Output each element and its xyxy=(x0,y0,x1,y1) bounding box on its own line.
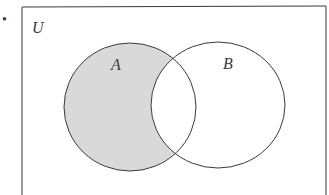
venn-diagram: • U A B xyxy=(0,0,329,195)
set-a-label: A xyxy=(110,56,121,73)
shaded-region-a-only xyxy=(64,43,196,171)
universe-label: U xyxy=(32,19,45,36)
bullet-marker: • xyxy=(2,12,7,27)
set-b-label: B xyxy=(223,55,233,72)
